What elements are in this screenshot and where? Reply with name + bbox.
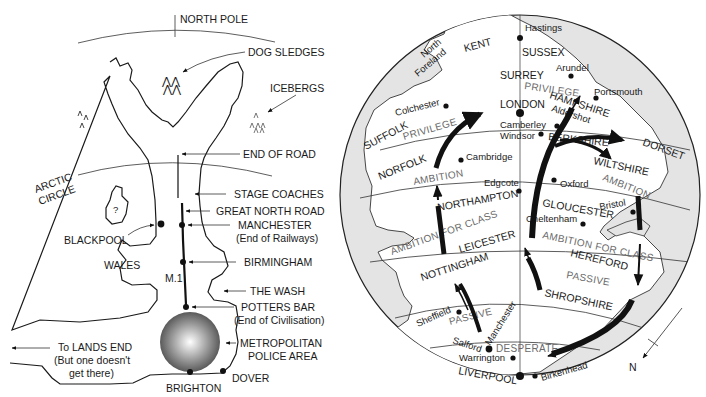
manchester-note: (End of Railways)	[236, 232, 318, 244]
bristol-dot	[630, 209, 635, 214]
right-map-globe: Hastings North Foreland KENT SUSSEX Arun…	[340, 12, 700, 386]
island-question-mark: ?	[113, 204, 118, 215]
blackpool-label: BLACKPOOL	[64, 234, 128, 246]
birkenhead-dot	[532, 373, 537, 378]
north-pole-label: NORTH POLE	[180, 13, 248, 25]
dog-sledges-label: DOG SLEDGES	[248, 46, 324, 58]
birmingham-dot	[180, 259, 186, 265]
portsmouth-label: Portsmouth	[594, 86, 643, 97]
blackpool-arrow	[128, 225, 154, 235]
camberley-label: Camberley	[500, 119, 546, 130]
liverpool-dot	[516, 372, 524, 380]
cheltenham-dot	[580, 221, 585, 226]
arrow-ambition-class-head	[437, 186, 438, 200]
iceberg-glyphs-west	[78, 111, 88, 128]
cambridge-label: Cambridge	[466, 151, 512, 162]
north-pole-arc	[78, 30, 275, 43]
the-wash-label: THE WASH	[250, 285, 305, 297]
manchester-label: MANCHESTER	[238, 219, 312, 231]
arundel-dot	[568, 73, 573, 78]
dog-sledge-glyphs-2: ⋀⋀	[162, 83, 182, 96]
warrington-dot	[510, 355, 515, 360]
sussex-label: SUSSEX	[522, 46, 565, 58]
zone-desperate: DESPERATE	[496, 343, 559, 354]
oxford-label: Oxford	[560, 178, 589, 189]
left-map: NORTH POLE ARCTIC CIRCLE ⋀⋀ ⋀⋀ DOG SLEDG…	[10, 13, 325, 394]
icebergs-label: ICEBERGS	[270, 82, 324, 94]
blackpool-dot	[158, 221, 165, 228]
potters-bar-label: POTTERS BAR	[241, 301, 316, 313]
london-dot	[516, 109, 524, 117]
warrington-label: Warrington	[459, 352, 505, 363]
birmingham-label: BIRMINGHAM	[244, 256, 312, 268]
arctic-circle-arc	[78, 163, 272, 176]
edgcote-label: Edgcote	[484, 177, 519, 188]
surrey-label: SURREY	[500, 69, 544, 81]
wales-label: WALES	[104, 259, 140, 271]
metropolitan-label-1: METROPOLITAN	[240, 337, 322, 349]
end-of-road-label: END OF ROAD	[243, 148, 316, 160]
compass-n-label: N	[629, 361, 637, 373]
hastings-label: Hastings	[525, 22, 562, 33]
metropolitan-label-2: POLICE AREA	[248, 350, 317, 362]
london-label: LONDON	[500, 98, 545, 110]
hastings-dot	[517, 35, 523, 41]
metropolitan-police-sphere	[160, 312, 220, 372]
stage-coaches-label: STAGE COACHES	[234, 188, 324, 200]
m1-label: M.1	[165, 272, 183, 284]
potters-bar-note: (End of Civilisation)	[234, 314, 324, 326]
oxford-dot	[551, 177, 556, 182]
icebergs-arrow	[268, 95, 296, 112]
brighton-label: BRIGHTON	[166, 382, 221, 394]
dover-dot	[220, 368, 226, 374]
m1-motorway	[182, 203, 186, 305]
diagram-canvas: NORTH POLE ARCTIC CIRCLE ⋀⋀ ⋀⋀ DOG SLEDG…	[0, 0, 706, 397]
windsor-dot	[538, 131, 543, 136]
brighton-dot	[187, 369, 193, 375]
great-north-road-label: GREAT NORTH ROAD	[216, 205, 325, 217]
cambridge-dot	[458, 157, 463, 162]
iceberg-glyphs	[250, 113, 265, 133]
dover-label: DOVER	[232, 372, 270, 384]
arundel-label: Arundel	[556, 62, 589, 73]
potters-bar-dot	[183, 304, 189, 310]
lands-end-label-2: (But one doesn't	[54, 354, 130, 366]
manchester-dot	[179, 222, 185, 228]
windsor-label: Windsor	[500, 130, 535, 141]
lands-end-label-3: get there)	[69, 367, 114, 379]
lands-end-label-1: To LANDS END	[58, 341, 133, 353]
colchester-dot	[443, 103, 448, 108]
arrow-east-down	[638, 196, 640, 230]
